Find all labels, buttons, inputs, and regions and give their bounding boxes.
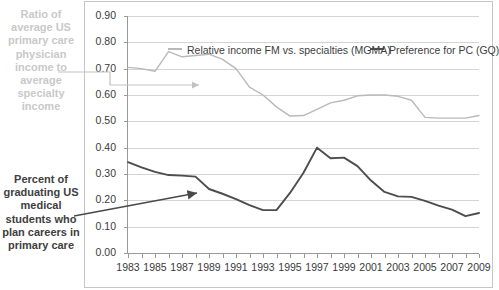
- x-axis-tick: [331, 254, 332, 258]
- gridline: [128, 121, 479, 122]
- x-axis-tick: [223, 254, 224, 258]
- gridline: [128, 174, 479, 175]
- y-axis-tick-label: 0.80: [76, 35, 116, 47]
- annotation-percent-students: Percent of graduating US medical student…: [2, 173, 80, 252]
- x-axis-tick: [371, 254, 372, 258]
- x-axis-tick: [277, 254, 278, 258]
- annotation-ratio-income: Ratio of average US primary care physici…: [2, 8, 80, 114]
- y-axis-tick: [124, 227, 128, 228]
- y-axis-tick: [124, 69, 128, 70]
- legend: Relative income FM vs. specialties (MGMA…: [168, 40, 478, 54]
- x-axis-tick: [250, 254, 251, 258]
- x-axis-tick: [196, 254, 197, 258]
- y-axis-tick: [124, 148, 128, 149]
- x-axis-tick: [466, 254, 467, 258]
- legend-entry: Preference for PC (GQ): [370, 40, 499, 54]
- y-axis-tick-label: 0.20: [76, 193, 116, 205]
- legend-swatch: [168, 48, 182, 50]
- x-axis-tick: [209, 254, 210, 258]
- x-axis-tick: [425, 254, 426, 258]
- y-axis-tick: [124, 200, 128, 201]
- x-axis-tick: [412, 254, 413, 258]
- x-axis-tick: [358, 254, 359, 258]
- y-axis-tick-label: 0.70: [76, 62, 116, 74]
- x-axis-tick: [155, 254, 156, 258]
- y-axis-tick-label: 0.60: [76, 88, 116, 100]
- y-axis-tick: [124, 95, 128, 96]
- y-axis-line: [127, 16, 128, 254]
- gridline: [128, 148, 479, 149]
- x-axis-tick: [344, 254, 345, 258]
- y-axis-tick: [124, 174, 128, 175]
- x-axis-tick-label: 2009: [462, 261, 496, 273]
- y-axis-tick-label: 0.00: [76, 246, 116, 258]
- y-axis-tick-label: 0.30: [76, 167, 116, 179]
- y-axis-tick-label: 0.90: [76, 9, 116, 21]
- x-axis-tick: [263, 254, 264, 258]
- x-axis-tick: [479, 254, 480, 258]
- y-axis-tick-label: 0.50: [76, 114, 116, 126]
- gridline: [128, 69, 479, 70]
- gridline: [128, 16, 479, 17]
- gridline: [128, 200, 479, 201]
- x-axis-tick: [169, 254, 170, 258]
- gridline: [128, 227, 479, 228]
- gridline: [128, 95, 479, 96]
- y-axis-tick-label: 0.10: [76, 220, 116, 232]
- x-axis-tick: [236, 254, 237, 258]
- y-axis-tick: [124, 16, 128, 17]
- x-axis-tick: [128, 254, 129, 258]
- x-axis-tick: [142, 254, 143, 258]
- y-axis-tick: [124, 121, 128, 122]
- x-axis-tick: [439, 254, 440, 258]
- x-axis-tick: [182, 254, 183, 258]
- x-axis-tick: [317, 254, 318, 258]
- x-axis-tick: [398, 254, 399, 258]
- legend-entry: Relative income FM vs. specialties (MGMA…: [168, 40, 391, 54]
- legend-swatch: [370, 48, 384, 51]
- y-axis-tick-label: 0.40: [76, 141, 116, 153]
- legend-label: Preference for PC (GQ): [389, 44, 499, 56]
- x-axis-tick: [290, 254, 291, 258]
- x-axis-tick: [452, 254, 453, 258]
- x-axis-tick: [304, 254, 305, 258]
- legend-label: Relative income FM vs. specialties (MGMA…: [187, 44, 391, 56]
- y-axis-tick: [124, 42, 128, 43]
- x-axis-tick: [385, 254, 386, 258]
